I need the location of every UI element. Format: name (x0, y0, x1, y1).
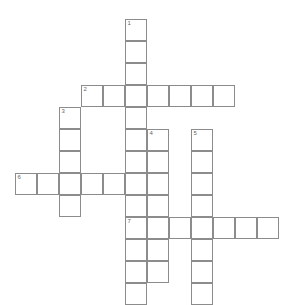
crossword-cell[interactable] (125, 239, 147, 261)
crossword-cell[interactable] (191, 195, 213, 217)
crossword-cell[interactable] (125, 283, 147, 305)
crossword-cell[interactable] (147, 217, 169, 239)
crossword-cell[interactable] (191, 217, 213, 239)
crossword-cell[interactable] (147, 173, 169, 195)
crossword-cell[interactable] (37, 173, 59, 195)
cell-number: 7 (128, 218, 131, 225)
crossword-cell[interactable] (125, 195, 147, 217)
cell-number: 2 (84, 86, 87, 93)
crossword-cell[interactable] (191, 85, 213, 107)
crossword-cell[interactable] (147, 85, 169, 107)
crossword-cell[interactable] (59, 151, 81, 173)
crossword-cell[interactable] (191, 239, 213, 261)
crossword-cell[interactable] (125, 107, 147, 129)
crossword-cell[interactable] (125, 151, 147, 173)
crossword-cell[interactable]: 4 (147, 129, 169, 151)
crossword-cell[interactable]: 7 (125, 217, 147, 239)
crossword-cell[interactable] (81, 173, 103, 195)
crossword-cell[interactable] (213, 85, 235, 107)
cell-number: 4 (150, 130, 153, 137)
crossword-cell[interactable] (125, 129, 147, 151)
crossword-cell[interactable] (191, 283, 213, 305)
crossword-cell[interactable] (169, 85, 191, 107)
cell-number: 1 (128, 20, 131, 27)
crossword-cell[interactable] (147, 151, 169, 173)
crossword-cell[interactable] (191, 151, 213, 173)
crossword-cell[interactable] (191, 261, 213, 283)
crossword-cell[interactable] (103, 173, 125, 195)
crossword-cell[interactable] (235, 217, 257, 239)
crossword-cell[interactable] (125, 261, 147, 283)
crossword-cell[interactable] (213, 217, 235, 239)
crossword-cell[interactable]: 1 (125, 19, 147, 41)
crossword-cell[interactable] (147, 261, 169, 283)
crossword-cell[interactable] (147, 239, 169, 261)
crossword-cell[interactable]: 5 (191, 129, 213, 151)
crossword-cell[interactable]: 2 (81, 85, 103, 107)
crossword-cell[interactable] (125, 41, 147, 63)
crossword-cell[interactable] (125, 63, 147, 85)
crossword-cell[interactable] (169, 217, 191, 239)
crossword-cell[interactable] (59, 129, 81, 151)
crossword-cell[interactable] (147, 195, 169, 217)
crossword-cell[interactable] (257, 217, 279, 239)
crossword-cell[interactable] (59, 195, 81, 217)
crossword-cell[interactable] (103, 85, 125, 107)
crossword-cell[interactable] (125, 173, 147, 195)
crossword-cell[interactable] (191, 173, 213, 195)
cell-number: 5 (194, 130, 197, 137)
cell-number: 6 (18, 174, 21, 181)
crossword-cell[interactable] (125, 85, 147, 107)
crossword-cell[interactable]: 6 (15, 173, 37, 195)
crossword-cell[interactable] (59, 173, 81, 195)
crossword-cell[interactable]: 3 (59, 107, 81, 129)
cell-number: 3 (62, 108, 65, 115)
